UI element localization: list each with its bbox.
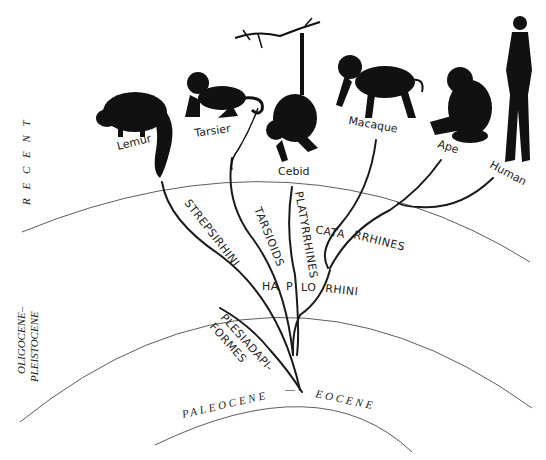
ape-silhouette-icon bbox=[430, 67, 492, 143]
epoch-label-oligocene-1: OLIGOCENE– bbox=[15, 306, 27, 374]
tarsier-silhouette-icon bbox=[185, 72, 262, 170]
primate-phylogeny-diagram: Lemur Tarsier Cebid Macaque Ape Human ST… bbox=[0, 0, 546, 460]
branch-strepsirhini bbox=[162, 182, 300, 390]
taxon-label-human: Human bbox=[488, 158, 529, 188]
epoch-label-oligocene-2: PLEISTOCENE bbox=[28, 311, 40, 383]
human-silhouette-icon bbox=[505, 16, 532, 162]
branch-macaque bbox=[325, 140, 376, 268]
macaque-silhouette-icon bbox=[336, 55, 423, 118]
clade-label-haplorhini-c: LO bbox=[301, 281, 316, 294]
clade-label-strepsirhini: STREPSIRHINI bbox=[182, 197, 243, 269]
taxon-label-macaque: Macaque bbox=[347, 114, 398, 135]
clade-label-haplorhini-b: P bbox=[286, 280, 293, 293]
epoch-dash: — bbox=[284, 383, 295, 395]
clade-label-catarrhines-b: RRHINES bbox=[352, 228, 406, 253]
clade-label-catarrhines-a: CATA bbox=[314, 223, 346, 241]
taxon-label-tarsier: Tarsier bbox=[193, 122, 232, 140]
epoch-label-paleocene: PALEOCENE bbox=[180, 388, 269, 420]
clade-label-haplorhini-a: HA bbox=[262, 280, 279, 293]
branch-ape bbox=[330, 160, 441, 268]
clade-label-haplorhini-d: RHINI bbox=[325, 282, 359, 298]
epoch-label-eocene: EOCENE bbox=[314, 387, 377, 412]
cebid-silhouette-icon bbox=[235, 18, 320, 162]
clade-label-tarsioids: TARSIOIDS bbox=[251, 204, 287, 268]
taxon-label-cebid: Cebid bbox=[278, 165, 309, 178]
epoch-label-recent: R E C E N T bbox=[20, 117, 32, 206]
diagram-svg: Lemur Tarsier Cebid Macaque Ape Human ST… bbox=[0, 0, 546, 460]
oligocene-boundary-arc bbox=[20, 317, 532, 422]
